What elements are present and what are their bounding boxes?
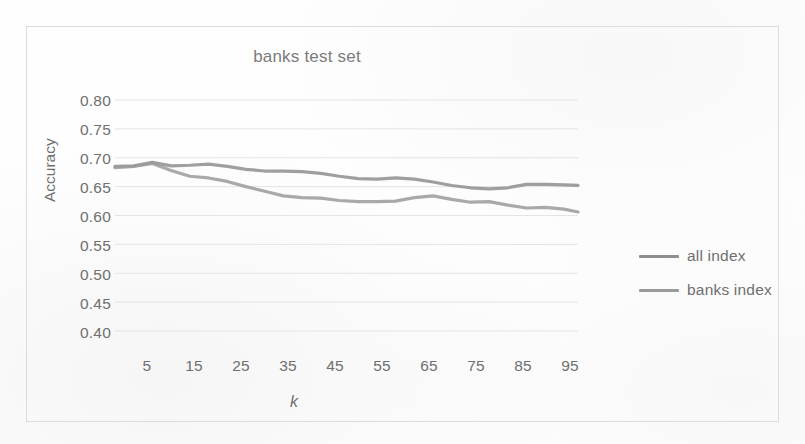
legend-item-banks-index[interactable]: banks index bbox=[639, 273, 805, 307]
plot-area bbox=[27, 27, 780, 423]
chart-figure-frame: banks test set Accuracy k 0.80 0.75 0.70… bbox=[26, 26, 779, 422]
legend: all index banks index bbox=[639, 239, 805, 307]
legend-swatch-icon bbox=[639, 289, 679, 292]
legend-swatch-icon bbox=[639, 255, 679, 258]
legend-item-all-index[interactable]: all index bbox=[639, 239, 805, 273]
gridlines bbox=[115, 100, 578, 331]
legend-item-label: banks index bbox=[687, 281, 772, 299]
data-series-group bbox=[115, 162, 578, 212]
legend-item-label: all index bbox=[687, 247, 746, 265]
